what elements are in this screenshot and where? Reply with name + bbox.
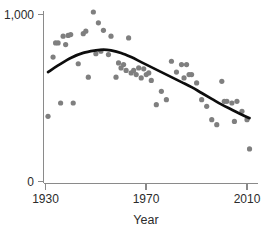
data-point: [58, 100, 63, 105]
data-point: [232, 119, 237, 124]
data-point: [101, 28, 106, 33]
data-point: [139, 75, 144, 80]
data-point: [45, 114, 50, 119]
data-point: [116, 60, 121, 65]
data-point: [209, 117, 214, 122]
data-point: [83, 29, 88, 34]
y-tick-label-top: 1,000: [4, 8, 34, 22]
data-point: [219, 79, 224, 84]
data-point: [247, 146, 252, 151]
data-point: [55, 40, 60, 45]
data-point: [61, 34, 66, 39]
data-point: [50, 54, 55, 59]
scatter-plot: 1,000 0 1930 1970 2010 Year: [0, 0, 266, 232]
data-point: [124, 68, 129, 73]
data-point: [234, 99, 239, 104]
data-point: [164, 97, 169, 102]
x-tick-label-1930: 1930: [32, 192, 59, 206]
data-point: [159, 89, 164, 94]
data-point: [224, 99, 229, 104]
data-point: [229, 100, 234, 105]
x-tick-label-2010: 2010: [234, 192, 261, 206]
data-point: [71, 100, 76, 105]
data-point: [96, 20, 101, 25]
data-point: [194, 80, 199, 85]
data-point: [189, 72, 194, 77]
data-point: [68, 32, 73, 37]
data-point: [179, 62, 184, 67]
chart-container: 1,000 0 1930 1970 2010 Year: [0, 0, 266, 232]
data-point: [141, 66, 146, 71]
data-point: [108, 34, 113, 39]
data-point: [86, 75, 91, 80]
data-point: [91, 9, 96, 14]
data-point: [121, 62, 126, 67]
y-tick-label-bottom: 0: [27, 175, 34, 189]
data-point: [149, 78, 154, 83]
data-point: [199, 97, 204, 102]
data-point: [136, 65, 141, 70]
data-point: [126, 35, 131, 40]
data-point: [106, 52, 111, 57]
x-axis-title: Year: [133, 213, 158, 227]
data-point: [76, 61, 81, 66]
data-point: [113, 75, 118, 80]
data-point: [214, 122, 219, 127]
data-point: [154, 102, 159, 107]
x-tick-label-1970: 1970: [133, 192, 160, 206]
data-point: [169, 59, 174, 64]
data-point: [184, 62, 189, 67]
data-point: [134, 72, 139, 77]
data-point: [204, 104, 209, 109]
data-point: [146, 70, 151, 75]
data-point: [63, 42, 68, 47]
data-points-layer: [45, 9, 252, 151]
data-point: [181, 75, 186, 80]
trend-line: [48, 50, 250, 118]
data-point: [174, 70, 179, 75]
